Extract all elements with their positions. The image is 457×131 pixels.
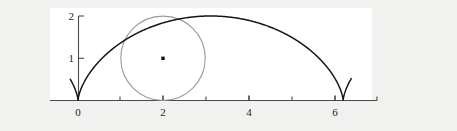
circle-center-dot <box>161 57 164 60</box>
y-tick-label-1: 1 <box>69 52 75 64</box>
cycloid-osculating-circle-figure: 0 2 4 6 1 2 <box>0 0 457 131</box>
plot-area-background <box>50 8 372 100</box>
y-tick-label-2: 2 <box>69 10 75 22</box>
x-tick-label-6: 6 <box>332 106 338 118</box>
x-tick-label-4: 4 <box>246 106 252 118</box>
plot-svg: 0 2 4 6 1 2 <box>0 0 457 131</box>
x-tick-label-0: 0 <box>75 106 81 118</box>
x-tick-label-2: 2 <box>160 106 166 118</box>
